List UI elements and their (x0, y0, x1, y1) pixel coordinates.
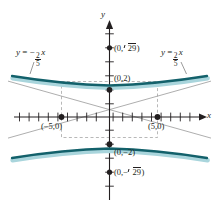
asymptote-left-equals: = (22, 47, 27, 57)
point-label-open: (0,− (114, 167, 128, 177)
asymptote-right-lhs: y (161, 47, 165, 57)
fraction-two-fifths: 25 (35, 52, 41, 68)
fraction-numerator: 2 (35, 52, 41, 60)
x-axis-label: x (207, 111, 211, 120)
point-label-open: (0, (114, 43, 123, 53)
point-label-0-sqrt29: (0,29) (114, 43, 140, 53)
radical-icon: 29 (123, 43, 137, 53)
x-axis-arrow (199, 113, 207, 120)
asymptote-left-var: x (41, 47, 45, 57)
point-neg5-0 (59, 114, 65, 120)
asymptote-label-right: y =25x (161, 48, 183, 68)
asymptote-left-sign: − (30, 47, 35, 57)
point-label-neg5-0: (−5,0) (41, 122, 62, 131)
asymptote-left-lhs: y (16, 47, 20, 57)
radical-icon: 29 (128, 167, 142, 177)
y-axis-arrow (106, 20, 113, 29)
asymptote-right-equals: = (167, 47, 172, 57)
y-axis-label: y (101, 10, 105, 19)
fraction-two-fifths: 25 (173, 52, 179, 68)
point-5-0 (155, 114, 161, 120)
lower-branch-shadow (13, 151, 208, 161)
point-label-0-neg-sqrt29: (0,−29) (114, 167, 144, 177)
point-label-0-neg2: (0,−2) (114, 148, 135, 157)
radicand: 29 (128, 43, 137, 53)
point-label-5-0: (5,0) (148, 122, 164, 131)
point-0-neg-sqrt29 (107, 170, 112, 175)
asymptote-label-left: y = −25x (16, 48, 45, 68)
graph-canvas (0, 0, 219, 207)
hyperbola-figure: y x (0,29) (0,2) (−5,0) (5,0) (0,−2) (0,… (0, 0, 219, 207)
fraction-denominator: 5 (35, 59, 41, 68)
point-label-close: ) (142, 167, 145, 177)
point-0-neg2 (107, 141, 113, 147)
radicand: 29 (133, 167, 142, 177)
point-label-0-2: (0,2) (114, 74, 130, 83)
fraction-numerator: 2 (173, 52, 179, 60)
point-label-close: ) (137, 43, 140, 53)
point-0-sqrt29 (107, 45, 112, 50)
point-0-2 (107, 87, 113, 93)
asymptote-right-var: x (179, 47, 183, 57)
fraction-denominator: 5 (173, 59, 179, 68)
